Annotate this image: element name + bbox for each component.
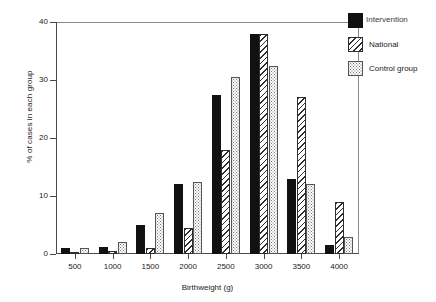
- bar-control-group: [80, 248, 89, 254]
- bar-intervention: [61, 248, 70, 254]
- x-tick-mark: [264, 254, 265, 259]
- bar-group: [174, 22, 202, 254]
- legend-label-control-group: Control group: [369, 64, 417, 73]
- bar-national: [146, 248, 155, 254]
- bar-control-group: [231, 77, 240, 254]
- bar-group: [61, 22, 89, 254]
- x-tick-mark: [339, 254, 340, 259]
- bar-group: [212, 22, 240, 254]
- bar-intervention: [325, 245, 334, 254]
- y-axis-title: % of cases in each group: [25, 32, 34, 202]
- legend-item-control-group: Control group: [348, 60, 436, 82]
- bar-intervention: [136, 225, 145, 254]
- y-tick-mark: [50, 254, 56, 255]
- bar-control-group: [193, 182, 202, 255]
- x-tick-mark: [188, 254, 189, 259]
- x-tick-mark: [150, 254, 151, 259]
- bar-intervention: [174, 184, 183, 254]
- bar-control-group: [155, 213, 164, 254]
- legend-swatch-intervention: [348, 13, 363, 28]
- x-tick-mark: [226, 254, 227, 259]
- bar-chart-figure: 010203040 % of cases in each group 50010…: [0, 0, 436, 302]
- bar-group: [99, 22, 127, 254]
- legend-label-intervention: Intervention: [366, 15, 408, 24]
- legend-item-national: National: [348, 36, 436, 58]
- legend-label-national: National: [369, 40, 398, 49]
- bar-intervention: [250, 34, 259, 254]
- bar-group: [250, 22, 278, 254]
- bar-control-group: [118, 242, 127, 254]
- bar-control-group: [306, 184, 315, 254]
- bar-national: [70, 252, 79, 254]
- bar-intervention: [99, 247, 108, 254]
- bar-control-group: [269, 66, 278, 255]
- legend-swatch-national: [348, 37, 363, 52]
- x-tick-mark: [301, 254, 302, 259]
- legend-swatch-control-group: [348, 61, 363, 76]
- bar-control-group: [344, 237, 353, 254]
- y-tick-label: 0: [6, 250, 48, 258]
- chart-legend: Intervention National Control group: [348, 12, 436, 84]
- bar-group: [136, 22, 164, 254]
- bar-intervention: [287, 179, 296, 254]
- y-tick-label: 40: [6, 18, 48, 26]
- legend-item-intervention: Intervention: [348, 12, 436, 34]
- bar-national: [184, 228, 193, 254]
- plot-area: [56, 22, 358, 254]
- bar-national: [259, 34, 268, 254]
- bar-national: [335, 202, 344, 254]
- x-tick-label: 4000: [317, 262, 361, 271]
- bar-group: [287, 22, 315, 254]
- x-tick-mark: [75, 254, 76, 259]
- bar-national: [108, 251, 117, 254]
- bar-national: [221, 150, 230, 254]
- bar-national: [297, 97, 306, 254]
- bar-intervention: [212, 95, 221, 255]
- x-axis-title: Birthweight (g): [56, 283, 359, 292]
- x-tick-mark: [113, 254, 114, 259]
